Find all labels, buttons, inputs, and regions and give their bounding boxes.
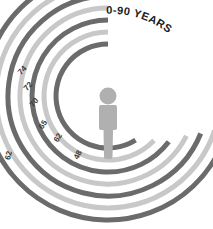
arc-ring-48 [56, 44, 136, 148]
radial-age-chart: 48626570727462 0-90 YEARS [0, 0, 213, 229]
chart-canvas: 48626570727462 0-90 YEARS [0, 0, 213, 229]
chart-title: 0-90 YEARS [106, 4, 175, 35]
